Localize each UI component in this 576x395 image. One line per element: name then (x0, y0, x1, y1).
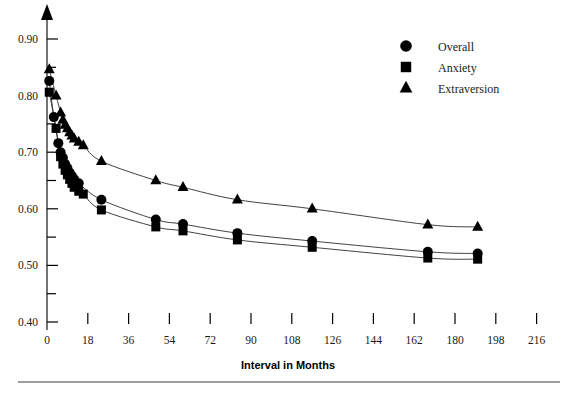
datapoint-anxiety-16 (423, 254, 432, 263)
datapoint-anxiety-1 (52, 124, 61, 133)
x-tick-label-90: 90 (245, 334, 257, 346)
x-tick-label-198: 198 (487, 334, 505, 346)
x-axis-title: Interval in Months (241, 359, 335, 371)
x-tick-label-18: 18 (82, 334, 94, 346)
x-tick-label-0: 0 (44, 334, 50, 346)
legend-label-overall: Overall (438, 40, 475, 54)
datapoint-anxiety-14 (233, 235, 242, 244)
legend-label-anxiety: Anxiety (438, 61, 477, 75)
x-tick-label-54: 54 (164, 334, 176, 346)
x-tick-label-36: 36 (123, 334, 135, 346)
datapoint-anxiety-15 (308, 243, 317, 252)
datapoint-overall-0 (44, 76, 54, 86)
datapoint-overall-2 (53, 138, 63, 148)
legend-label-extraversion: Extraversion (438, 82, 499, 96)
datapoint-overall-11 (96, 195, 106, 205)
x-tick-label-180: 180 (446, 334, 464, 346)
y-tick-label-0.80: 0.80 (18, 90, 38, 102)
y-tick-label-0.50: 0.50 (18, 259, 38, 271)
x-tick-label-162: 162 (406, 334, 424, 346)
y-tick-label-0.90: 0.90 (18, 33, 38, 45)
x-tick-label-72: 72 (204, 334, 216, 346)
datapoint-anxiety-17 (473, 255, 482, 264)
datapoint-anxiety-0 (45, 88, 54, 97)
x-tick-label-126: 126 (324, 334, 342, 346)
y-tick-label-0.60: 0.60 (18, 203, 38, 215)
legend-marker-anxiety (401, 62, 411, 72)
retest-reliability-chart: 0.400.500.600.700.800.90 018365472901081… (0, 0, 576, 395)
datapoint-anxiety-10 (79, 190, 88, 199)
y-tick-label-0.40: 0.40 (18, 316, 38, 328)
legend-marker-overall (400, 40, 412, 52)
x-tick-label-108: 108 (283, 334, 301, 346)
datapoint-anxiety-13 (179, 226, 188, 235)
datapoint-anxiety-12 (151, 222, 160, 231)
x-tick-label-216: 216 (528, 334, 546, 346)
y-tick-label-0.70: 0.70 (18, 146, 38, 158)
x-tick-label-144: 144 (365, 334, 383, 346)
datapoint-anxiety-11 (97, 205, 106, 214)
